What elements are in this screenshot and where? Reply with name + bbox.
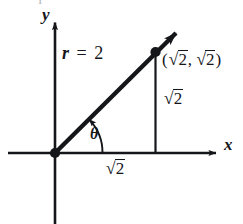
point-close-paren: ) (215, 50, 221, 69)
y-axis-label: y (42, 6, 50, 23)
point-x-radicand: 2 (178, 50, 188, 68)
horizontal-leg-label: √2 (105, 159, 125, 177)
radius-value: 2 (94, 43, 104, 63)
vertical-leg-radical: √2 (163, 89, 183, 107)
x-axis-label: x (224, 136, 233, 153)
radius-label: r = 2 (62, 44, 104, 62)
origin-point-marker (50, 148, 60, 158)
terminal-point-label: (√2, √2) (162, 50, 221, 68)
angle-theta-label: θ (90, 126, 98, 142)
radius-variable: r (62, 43, 70, 63)
point-x-radical: √2 (168, 50, 188, 68)
point-y-radicand: 2 (205, 50, 215, 68)
vertical-leg-label: √2 (163, 89, 183, 107)
point-y-radical: √2 (195, 50, 215, 68)
horizontal-leg-radicand: 2 (115, 159, 125, 177)
radius-relation: = (77, 43, 88, 63)
polar-coordinate-diagram: I ’ y x (0, 0, 243, 224)
vertical-leg-radicand: 2 (173, 89, 183, 107)
horizontal-leg-radical: √2 (105, 159, 125, 177)
diagram-canvas (0, 0, 243, 224)
point-comma: , (188, 50, 192, 69)
terminal-point-marker (150, 47, 160, 57)
